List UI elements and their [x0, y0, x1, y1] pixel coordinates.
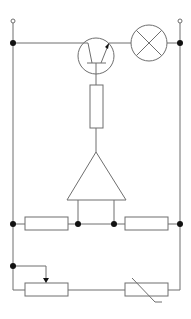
junction-dot	[177, 221, 183, 227]
right-rail	[168, 23, 180, 290]
potentiometer-icon	[13, 266, 68, 296]
amplifier-icon	[67, 152, 126, 224]
resistor-left-icon	[25, 217, 68, 230]
thermistor-icon	[125, 278, 168, 302]
circuit-diagram	[0, 0, 191, 319]
junction-dot	[177, 40, 183, 46]
junction-dot	[75, 221, 81, 227]
base-resistor-icon	[90, 85, 103, 128]
left-rail	[13, 23, 25, 290]
transistor-icon	[78, 38, 114, 85]
junction-dot	[10, 221, 16, 227]
junction-dot	[10, 263, 16, 269]
terminal-left-icon	[11, 19, 15, 23]
junction-dot	[111, 221, 117, 227]
junction-dot	[10, 40, 16, 46]
terminal-right-icon	[178, 19, 182, 23]
lamp-icon	[131, 25, 167, 61]
resistor-right-icon	[125, 217, 168, 230]
